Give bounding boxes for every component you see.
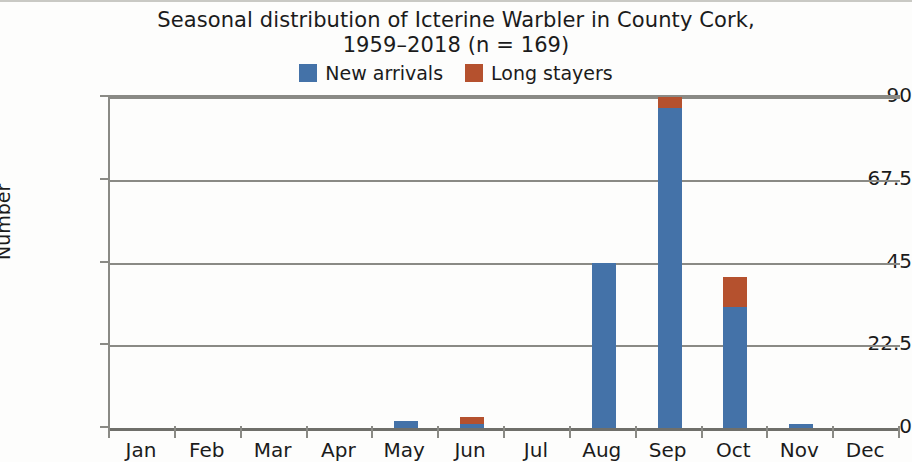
- y-tick-mark: [100, 95, 108, 97]
- x-tick-label: Apr: [321, 438, 356, 462]
- x-tick-label: Jul: [524, 438, 548, 462]
- plot-area: [108, 95, 900, 428]
- bar-segment-long-stayers: [723, 277, 747, 306]
- legend-label-long-stayers: Long stayers: [491, 62, 613, 84]
- x-tick-mark: [766, 426, 768, 438]
- x-tick-mark: [569, 426, 571, 438]
- gridline: [110, 97, 900, 99]
- bar-jun: [460, 417, 484, 428]
- x-tick-mark: [240, 426, 242, 438]
- x-tick-mark: [701, 426, 703, 438]
- bar-oct: [723, 277, 747, 428]
- x-tick-label: Jun: [454, 438, 485, 462]
- chart-title-line-1: Seasonal distribution of Icterine Warble…: [0, 8, 912, 33]
- gridline: [110, 180, 900, 182]
- x-tick-mark: [437, 426, 439, 438]
- chart-figure: Seasonal distribution of Icterine Warble…: [0, 0, 912, 462]
- bar-segment-new-arrivals: [658, 108, 682, 428]
- x-tick-mark: [832, 426, 834, 438]
- bar-segment-long-stayers: [460, 417, 484, 424]
- legend-label-new-arrivals: New arrivals: [325, 62, 443, 84]
- bar-segment-new-arrivals: [592, 263, 616, 429]
- bar-segment-new-arrivals: [723, 307, 747, 428]
- chart-legend: New arrivals Long stayers: [0, 62, 912, 84]
- gridline: [110, 345, 900, 347]
- x-tick-mark: [635, 426, 637, 438]
- y-axis-title: Number: [0, 184, 14, 260]
- x-tick-label: Dec: [846, 438, 885, 462]
- x-tick-label: Oct: [716, 438, 751, 462]
- x-tick-label: Feb: [189, 438, 224, 462]
- x-tick-mark: [174, 426, 176, 438]
- chart-title-line-2: 1959–2018 (n = 169): [0, 33, 912, 58]
- y-tick-mark: [100, 261, 108, 263]
- bar-sep: [658, 97, 682, 428]
- x-tick-mark: [503, 426, 505, 438]
- legend-swatch-long-stayers: [465, 64, 483, 82]
- y-tick-mark: [100, 178, 108, 180]
- bar-segment-long-stayers: [658, 97, 682, 108]
- legend-entry-long-stayers: Long stayers: [465, 62, 613, 84]
- legend-swatch-new-arrivals: [299, 64, 317, 82]
- x-tick-mark: [108, 426, 110, 438]
- x-tick-mark: [371, 426, 373, 438]
- x-tick-label: Aug: [582, 438, 621, 462]
- chart-title: Seasonal distribution of Icterine Warble…: [0, 8, 912, 58]
- gridline: [110, 263, 900, 265]
- bar-aug: [592, 263, 616, 429]
- x-tick-label: Mar: [254, 438, 292, 462]
- x-tick-label: Nov: [780, 438, 819, 462]
- y-tick-mark: [100, 426, 108, 428]
- legend-entry-new-arrivals: New arrivals: [299, 62, 443, 84]
- x-tick-label: May: [384, 438, 425, 462]
- x-tick-mark: [306, 426, 308, 438]
- bar-segment-new-arrivals: [394, 421, 418, 428]
- x-tick-mark: [898, 426, 900, 438]
- bar-may: [394, 421, 418, 428]
- y-tick-mark: [100, 343, 108, 345]
- x-tick-label: Jan: [125, 438, 156, 462]
- x-tick-label: Sep: [649, 438, 687, 462]
